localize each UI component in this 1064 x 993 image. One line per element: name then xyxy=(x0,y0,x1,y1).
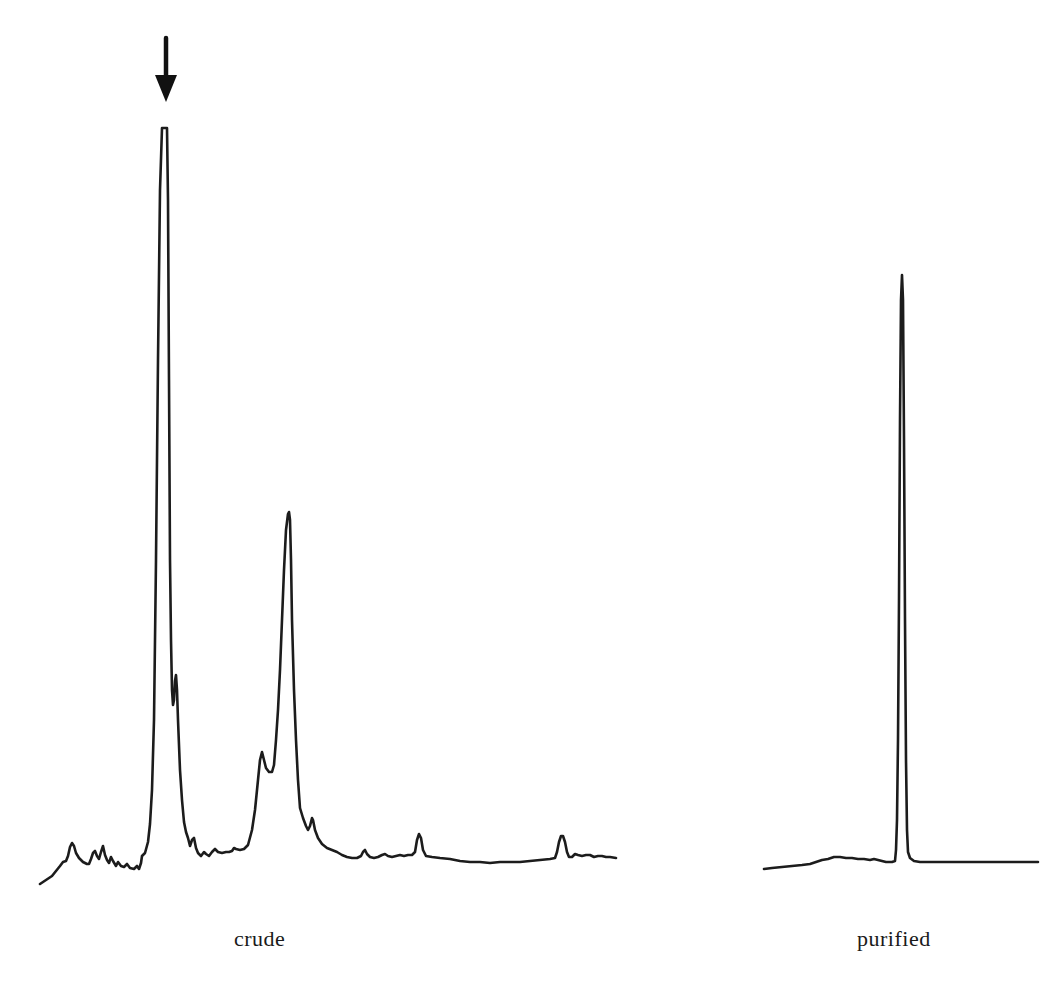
down-arrow-icon xyxy=(155,38,177,102)
chromatogram-plot xyxy=(0,0,1064,993)
crude-trace xyxy=(40,128,616,884)
purified-label: purified xyxy=(857,926,931,952)
chromatogram-figure: crude purified xyxy=(0,0,1064,993)
purified-trace xyxy=(764,275,1038,869)
crude-label: crude xyxy=(234,926,285,952)
